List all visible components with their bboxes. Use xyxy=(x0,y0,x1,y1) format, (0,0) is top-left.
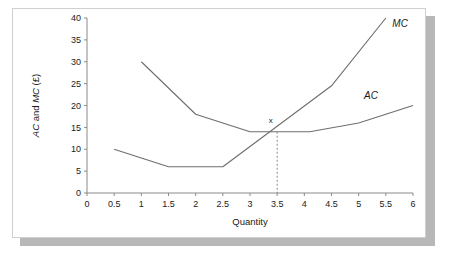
y-tick-label: 20 xyxy=(71,101,81,111)
y-tick-label: 25 xyxy=(71,79,81,89)
x-tick-label: 3.5 xyxy=(271,199,284,209)
intersection-marker-label: x xyxy=(269,116,273,125)
y-tick-label: 35 xyxy=(71,35,81,45)
chart-plot-area: 0510152025303540 00.511.522.533.544.555.… xyxy=(13,9,427,239)
y-tick-label: 15 xyxy=(71,123,81,133)
x-tick-label: 1 xyxy=(139,199,144,209)
screenshot-root: 0510152025303540 00.511.522.533.544.555.… xyxy=(0,0,451,256)
y-tick-label: 30 xyxy=(71,57,81,67)
x-tick-label: 2 xyxy=(193,199,198,209)
x-tick-label: 0.5 xyxy=(108,199,121,209)
y-tick-label: 40 xyxy=(71,13,81,23)
cost-curves-chart: 0510152025303540 00.511.522.533.544.555.… xyxy=(13,9,427,239)
y-tick-label: 10 xyxy=(71,144,81,154)
curve-mc xyxy=(114,18,386,167)
x-tick-label: 5 xyxy=(356,199,361,209)
x-tick-label: 2.5 xyxy=(217,199,230,209)
x-axis-ticks: 00.511.522.533.544.555.56 xyxy=(84,193,415,209)
y-tick-label: 0 xyxy=(76,188,81,198)
data-curves: MCAC xyxy=(114,18,413,167)
x-tick-label: 0 xyxy=(84,199,89,209)
x-tick-label: 3 xyxy=(247,199,252,209)
series-label-mc: MC xyxy=(392,18,408,29)
y-axis-ticks: 0510152025303540 xyxy=(71,13,87,198)
x-axis-title: Quantity xyxy=(232,216,268,227)
y-tick-label: 5 xyxy=(76,166,81,176)
series-label-ac: AC xyxy=(363,90,379,101)
chart-annotations: x xyxy=(269,116,278,193)
chart-card: 0510152025303540 00.511.522.533.544.555.… xyxy=(12,8,426,238)
y-axis-title: AC and MC (£) xyxy=(30,74,41,138)
x-tick-label: 4 xyxy=(302,199,307,209)
x-tick-label: 6 xyxy=(410,199,415,209)
x-tick-label: 5.5 xyxy=(380,199,393,209)
x-tick-label: 4.5 xyxy=(325,199,338,209)
axis-titles: QuantityAC and MC (£) xyxy=(30,74,268,227)
x-tick-label: 1.5 xyxy=(162,199,175,209)
